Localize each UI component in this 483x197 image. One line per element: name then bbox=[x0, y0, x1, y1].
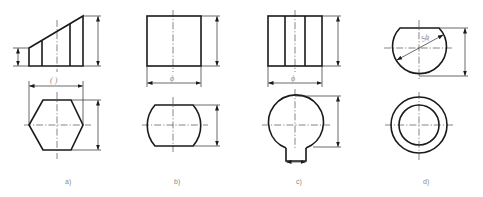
panel-b-top-view bbox=[142, 97, 220, 152]
panel-d-front-view: Sϕ bbox=[384, 20, 468, 80]
dim-text-a: ( ) bbox=[50, 76, 58, 85]
dim-text-d: Sϕ bbox=[419, 32, 430, 44]
panel-b: ϕ b) bbox=[142, 10, 220, 186]
panel-c-top-view bbox=[262, 89, 341, 162]
panel-a: ( ) a) bbox=[13, 16, 101, 186]
panel-d-top-view bbox=[385, 92, 453, 160]
panel-c-front-view bbox=[268, 10, 341, 72]
panel-b-width-dimension: ϕ bbox=[147, 66, 201, 87]
panel-c-width-dimension: ϕ bbox=[268, 66, 322, 87]
dim-text-b: ϕ bbox=[170, 74, 174, 83]
panel-b-front-view bbox=[147, 10, 220, 72]
caption-c: c) bbox=[296, 178, 302, 186]
caption-a: a) bbox=[65, 178, 71, 186]
caption-d: d) bbox=[423, 178, 429, 186]
caption-b: b) bbox=[174, 178, 180, 186]
panel-c: ϕ c) bbox=[262, 10, 341, 186]
panel-d: Sϕ d) bbox=[384, 20, 468, 186]
dim-text-c: ϕ bbox=[291, 74, 295, 83]
drawing-canvas: ( ) a) ϕ bbox=[0, 0, 483, 197]
panel-a-top-view bbox=[24, 92, 101, 159]
panel-a-front-view bbox=[13, 16, 101, 72]
